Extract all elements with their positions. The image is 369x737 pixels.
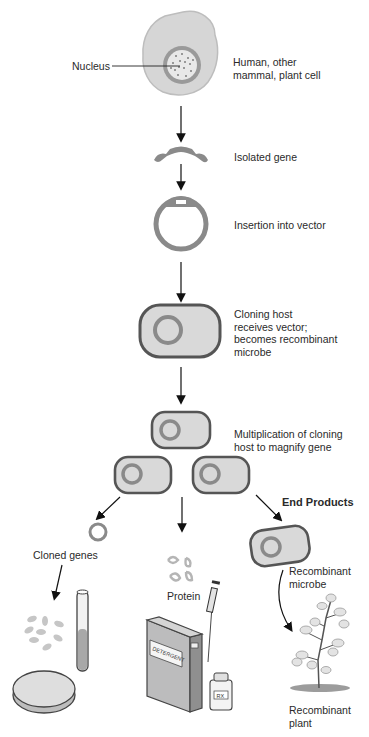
daughter-host-left-icon (115, 457, 171, 493)
rx-bottle-icon: RX (210, 673, 232, 710)
cloned-genes-label: Cloned genes (33, 549, 98, 562)
step-cell-label: Human, other mammal, plant cell (233, 56, 321, 81)
step-multiplication-label: Multiplication of cloning host to magnif… (234, 428, 343, 453)
multiplying-host-icon (152, 412, 210, 448)
syringe-icon (207, 580, 221, 662)
step-cloning-host-label: Cloning host receives vector; becomes re… (234, 308, 337, 358)
recombinant-microbe-label: Recombinant microbe (289, 565, 351, 590)
isolated-gene-icon (154, 147, 208, 163)
nucleus-label: Nucleus (72, 60, 110, 73)
protein-label: Protein (167, 590, 200, 603)
detergent-box-icon: DETERGENT (147, 617, 202, 712)
animal-cell-icon (112, 11, 218, 95)
test-tube-icon (77, 590, 88, 671)
step-isolated-gene-label: Isolated gene (234, 151, 297, 164)
recombinant-plant-icon (290, 594, 350, 692)
protein-icon (168, 557, 192, 581)
cloned-gene-icon (90, 524, 106, 540)
diagram-artwork: DETERGENT RX (0, 0, 369, 737)
step-insertion-label: Insertion into vector (234, 219, 326, 232)
rx-label: RX (217, 693, 225, 699)
petri-dish-icon (13, 671, 75, 713)
daughter-host-right-icon (193, 457, 249, 493)
cloning-host-icon (140, 305, 220, 357)
plasmid-vector-icon (156, 196, 206, 249)
recombinant-plant-label: Recombinant plant (289, 704, 351, 729)
end-products-heading: End Products (282, 496, 354, 509)
bacteria-colonies-icon (23, 614, 65, 652)
recombinant-microbe-icon (249, 524, 311, 568)
